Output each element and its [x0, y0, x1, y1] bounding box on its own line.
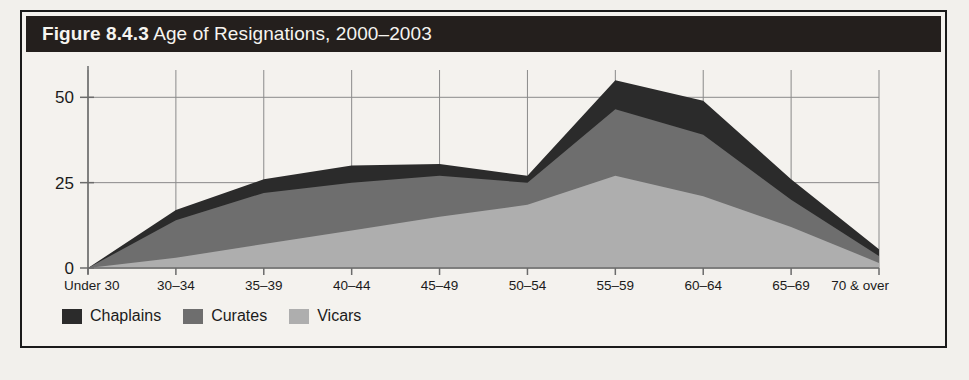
x-axis-tick-label: 55–59 — [597, 278, 635, 293]
y-axis-tick-label: 50 — [55, 88, 74, 107]
page-title: Figure 8.4.3 Age of Resignations, 2000–2… — [42, 23, 432, 45]
y-axis-labels: 02550 — [55, 88, 74, 278]
figure-container: Figure 8.4.3 Age of Resignations, 2000–2… — [0, 0, 969, 380]
x-axis-tick-label: 70 & over — [831, 278, 889, 293]
figure-number: Figure 8.4.3 — [42, 23, 149, 44]
legend-item[interactable]: Curates — [183, 307, 267, 325]
legend-item[interactable]: Vicars — [289, 307, 361, 325]
y-axis-tick-label: 25 — [55, 174, 74, 193]
legend-label: Curates — [211, 307, 267, 325]
x-axis-tick-label: Under 30 — [64, 278, 120, 293]
x-axis-tick-label: 50–54 — [509, 278, 547, 293]
chart-area: 02550 Under 3030–3435–3940–4445–4950–545… — [26, 56, 941, 342]
figure-caption: Age of Resignations, 2000–2003 — [153, 23, 432, 44]
legend-label: Vicars — [317, 307, 361, 325]
legend-label: Chaplains — [90, 307, 161, 325]
chart-legend: ChaplainsCuratesVicars — [62, 304, 969, 328]
legend-swatch-icon — [183, 309, 203, 324]
stacked-area-chart: 02550 Under 3030–3435–3940–4445–4950–545… — [26, 56, 941, 316]
x-axis-tick-label: 65–69 — [772, 278, 810, 293]
x-axis-labels: Under 3030–3435–3940–4445–4950–5455–5960… — [64, 278, 889, 293]
x-axis-tick-label: 30–34 — [157, 278, 195, 293]
x-axis-tick-label: 45–49 — [421, 278, 459, 293]
legend-item[interactable]: Chaplains — [62, 307, 161, 325]
x-axis-tick-label: 40–44 — [333, 278, 371, 293]
x-axis-tick-label: 60–64 — [684, 278, 722, 293]
area-series — [88, 80, 879, 268]
x-axis-tick-label: 35–39 — [245, 278, 283, 293]
y-axis-tick-label: 0 — [65, 259, 74, 278]
figure-title-bar: Figure 8.4.3 Age of Resignations, 2000–2… — [26, 16, 941, 52]
legend-swatch-icon — [62, 309, 82, 324]
legend-swatch-icon — [289, 309, 309, 324]
